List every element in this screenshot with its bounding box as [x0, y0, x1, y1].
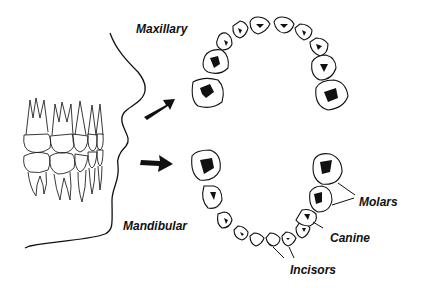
dental-arches-diagram: Maxillary Mandibular Molars Canine Incis…	[0, 0, 423, 288]
label-molars: Molars	[359, 196, 398, 208]
facial-profile-line	[25, 33, 145, 248]
label-mandibular: Mandibular	[123, 220, 187, 232]
arrow-to-mandibular-icon	[140, 155, 173, 172]
lateral-teeth-icon	[24, 98, 104, 202]
label-maxillary: Maxillary	[136, 23, 187, 35]
arrow-to-maxillary-icon	[144, 99, 175, 120]
label-incisors: Incisors	[290, 264, 336, 276]
label-canine: Canine	[330, 232, 370, 244]
